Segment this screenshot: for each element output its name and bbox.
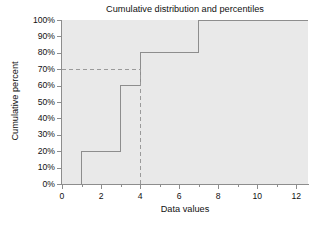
y-axis-tick-label-text: 70% [19,65,55,74]
y-axis-tick-label: 80% [16,48,55,57]
y-axis-tick-label-text: 90% [19,32,55,41]
x-axis-tick [101,185,102,189]
y-axis-tick [57,20,61,21]
x-axis-tick [296,185,297,189]
ecdf-step-line [82,20,308,184]
x-axis-tick-label-text: 8 [203,191,233,202]
x-axis-tick [62,185,63,189]
y-axis-tick [57,184,61,185]
x-axis-tick-label: 10 [242,191,272,202]
y-axis-tick [57,118,61,119]
y-axis-tick-label: 60% [16,81,55,90]
y-axis-tick-label-text: 30% [19,130,55,139]
x-axis-tick-label: 12 [281,191,311,202]
y-axis-tick-label: 50% [16,98,55,107]
y-axis-tick-label-text: 0% [19,180,55,189]
y-axis-tick [57,151,61,152]
x-axis-tick-label-text: 0 [47,191,77,202]
x-axis-minor-tick [277,185,278,187]
x-axis-tick-label: 0 [47,191,77,202]
x-axis-minor-tick [238,185,239,187]
y-axis-tick-label-text: 20% [19,147,55,156]
x-axis-tick [218,185,219,189]
x-axis-tick [257,185,258,189]
x-axis-tick-label: 6 [164,191,194,202]
y-axis-tick-label: 70% [16,65,55,74]
x-axis-minor-tick [160,185,161,187]
y-axis-spine [61,20,62,185]
y-axis-tick-label-text: 50% [19,98,55,107]
y-axis-tick-label: 100% [16,16,55,25]
y-axis-tick-label: 30% [16,130,55,139]
x-axis-minor-tick [199,185,200,187]
x-axis-title: Data values [62,203,308,215]
y-axis-tick [57,53,61,54]
y-axis-tick-label: 0% [16,180,55,189]
x-axis-tick-label-text: 2 [86,191,116,202]
y-axis-tick [57,69,61,70]
y-axis-tick-label-text: 60% [19,81,55,90]
x-axis-tick [140,185,141,189]
y-axis-tick-label: 20% [16,147,55,156]
x-axis-minor-tick [82,185,83,187]
y-axis-tick [57,36,61,37]
y-axis-tick-label-text: 100% [19,16,55,25]
x-axis-tick-label-text: 12 [281,191,311,202]
y-axis-tick-label-text: 80% [19,48,55,57]
chart-figure: Cumulative distribution and percentiles … [0,0,323,227]
y-axis-tick-label-text: 40% [19,114,55,123]
y-axis-tick-label: 10% [16,163,55,172]
y-axis-tick [57,102,61,103]
x-axis-tick-label: 8 [203,191,233,202]
x-axis-tick-label: 2 [86,191,116,202]
y-axis-tick [57,168,61,169]
plot-area [62,20,308,184]
y-axis-tick-label: 40% [16,114,55,123]
y-axis-tick [57,135,61,136]
x-axis-tick [179,185,180,189]
x-axis-minor-tick [121,185,122,187]
y-axis-tick [57,86,61,87]
y-axis-tick-label-text: 10% [19,163,55,172]
cumulative-distribution-curve [62,20,308,184]
y-axis-tick-label: 90% [16,32,55,41]
x-axis-spine [61,184,309,185]
x-axis-tick-label-text: 6 [164,191,194,202]
x-axis-tick-label-text: 4 [125,191,155,202]
x-axis-tick-label: 4 [125,191,155,202]
chart-title: Cumulative distribution and percentiles [62,3,308,15]
x-axis-tick-label-text: 10 [242,191,272,202]
